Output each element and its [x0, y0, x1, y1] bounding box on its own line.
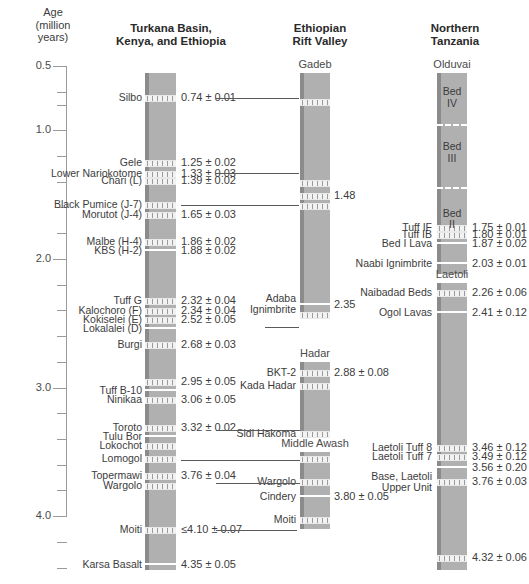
tuff-band: [300, 203, 330, 210]
unit-label: Kada Hadar: [218, 380, 296, 391]
olduvai-bed-label: Bed IV: [437, 86, 467, 109]
unit-label: Adaba Ignimbrite: [218, 293, 296, 315]
correlation-line-silbo-gadeb: [216, 98, 299, 99]
axis-tick: [53, 516, 67, 517]
tuff-band: [145, 397, 176, 404]
strat-column-tanzania: [437, 283, 467, 570]
unit-label: Lomogol: [44, 453, 142, 464]
tuff-band: [437, 454, 467, 461]
tuff-band: [145, 342, 176, 349]
unit-label: Burgi: [44, 339, 142, 350]
section-header-gadeb: Gadeb: [255, 58, 375, 70]
tuff-band: [145, 473, 176, 480]
unit-age-value: 1.48: [334, 190, 355, 201]
unit-boundary-line: [145, 435, 176, 437]
unit-age-value: 1.87 ± 0.02: [472, 238, 527, 249]
correlation-line-lomogol-awash: [181, 460, 300, 461]
unit-boundary-line: [300, 303, 330, 305]
tuff-band: [145, 212, 176, 219]
unit-age-value: 3.56 ± 0.20: [472, 462, 527, 473]
unit-boundary-line: [145, 563, 176, 565]
axis-tick: [57, 105, 67, 106]
tuff-band: [300, 312, 330, 319]
correlation-line-moiti-moiti: [216, 530, 297, 531]
olduvai-bed-divider: [437, 124, 467, 126]
axis-tick-label: 0.5: [18, 59, 51, 71]
tuff-band: [300, 180, 330, 187]
unit-label: Moiti: [218, 514, 296, 525]
tuff-band: [300, 479, 330, 486]
axis-tick: [53, 130, 67, 131]
unit-age-value: 1.88 ± 0.02: [181, 245, 236, 256]
tuff-band: [300, 456, 330, 463]
tuff-band: [145, 239, 176, 246]
column-header-ethiopian: Ethiopian Rift Valley: [270, 22, 370, 48]
unit-label: Chari (L): [44, 175, 142, 186]
tuff-band: [145, 202, 176, 209]
tuff-band: [145, 317, 176, 324]
correlation-line-lokalalei-adaba: [265, 327, 299, 328]
unit-label: Lokalalei (D): [44, 323, 142, 334]
tuff-band: [145, 379, 176, 386]
unit-label: Bed I Lava: [330, 238, 432, 249]
unit-label: Moiti: [44, 524, 142, 535]
tuff-band: [300, 370, 330, 377]
axis-tick: [57, 542, 67, 543]
tuff-band: [437, 479, 467, 486]
tuff-band: [145, 308, 176, 315]
tuff-band: [145, 178, 176, 185]
unit-label: BKT-2: [218, 367, 296, 378]
tuff-band: [437, 290, 467, 297]
unit-boundary-line: [145, 389, 176, 391]
unit-age-value: 3.49 ± 0.12: [472, 451, 527, 462]
tuff-band: [300, 431, 330, 438]
tuff-band: [300, 517, 330, 524]
axis-tick: [57, 336, 67, 337]
stratigraphic-chart: Age (million years) 0.51.02.03.04.0 Turk…: [0, 0, 529, 584]
section-header-hadar: Hadar: [255, 347, 375, 359]
correlation-line-wargolo-wargolo: [216, 483, 300, 484]
tuff-band: [145, 160, 176, 167]
unit-age-value: 2.52 ± 0.05: [181, 314, 236, 325]
olduvai-bed-divider: [437, 187, 467, 189]
olduvai-bed-label: Bed II: [437, 208, 467, 231]
unit-label: Morutot (J-4): [44, 209, 142, 220]
axis-title: Age (million years): [22, 6, 84, 44]
axis-tick-label: 4.0: [18, 509, 51, 521]
axis-tick: [57, 285, 67, 286]
unit-label: Lokochot: [44, 440, 142, 451]
unit-age-value: 3.76 ± 0.03: [472, 476, 527, 487]
axis-tick: [57, 413, 67, 414]
unit-boundary-line: [145, 327, 176, 329]
unit-age-value: 2.88 ± 0.08: [334, 367, 389, 378]
unit-age-value: 2.26 ± 0.06: [472, 287, 527, 298]
axis-tick: [57, 362, 67, 363]
unit-age-value: 2.03 ± 0.01: [472, 258, 527, 269]
unit-label: Ogol Lavas: [330, 307, 432, 318]
section-header-olduvai: Olduvai: [392, 58, 512, 70]
tuff-band: [145, 171, 176, 178]
unit-boundary-line: [437, 242, 467, 244]
tuff-band: [437, 555, 467, 562]
tuff-band: [145, 95, 176, 102]
unit-age-value: 2.68 ± 0.03: [181, 339, 236, 350]
unit-label: Ninikaa: [44, 394, 142, 405]
tuff-band: [145, 527, 176, 534]
unit-boundary-line: [437, 311, 467, 313]
axis-tick: [57, 233, 67, 234]
tuff-band: [437, 232, 467, 239]
unit-age-value: 3.06 ± 0.05: [181, 394, 236, 405]
tuff-band: [300, 383, 330, 390]
tuff-band: [145, 456, 176, 463]
unit-boundary-line: [300, 495, 330, 497]
unit-label: Laetoli Tuff 7: [330, 451, 432, 462]
olduvai-bed-label: Bed III: [437, 141, 467, 164]
tuff-band: [145, 298, 176, 305]
tuff-band: [437, 445, 467, 452]
unit-label: Naibadad Beds: [330, 287, 432, 298]
unit-label: Wargolo: [44, 480, 142, 491]
unit-boundary-line: [145, 249, 176, 251]
tuff-band: [145, 443, 176, 450]
correlation-line-chari-gadeb: [216, 173, 299, 174]
unit-age-value: 1.39 ± 0.02: [181, 175, 236, 186]
